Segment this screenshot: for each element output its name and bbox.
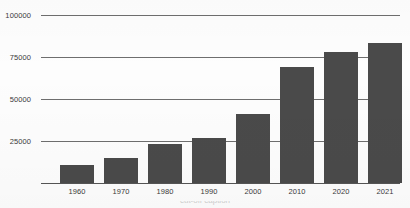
plot-area: 100000 75000 50000 25000 1960 1970 1980: [47, 8, 400, 183]
y-axis-label-50000: 50000: [0, 95, 31, 104]
bar-2010[interactable]: [280, 67, 314, 183]
caption-sliver: cut-off caption: [0, 201, 410, 208]
bars-layer: 1960 1970 1980 1990 2000 2010: [47, 8, 400, 183]
bar-group: 2000: [231, 8, 275, 183]
y-axis-label-75000: 75000: [0, 53, 31, 62]
x-axis-label-1980: 1980: [143, 187, 187, 196]
y-axis-label-25000: 25000: [0, 137, 31, 146]
bar-1960[interactable]: [60, 165, 94, 183]
bar-1970[interactable]: [104, 158, 138, 183]
bar-group: 1980: [143, 8, 187, 183]
bar-group: 1970: [99, 8, 143, 183]
bar-chart-figure: 100000 75000 50000 25000 1960 1970 1980: [0, 0, 410, 208]
x-axis-label-1960: 1960: [55, 187, 99, 196]
bar-2021[interactable]: [368, 43, 402, 183]
x-axis-label-1970: 1970: [99, 187, 143, 196]
bar-1980[interactable]: [148, 144, 182, 183]
caption-sliver-text: cut-off caption: [0, 201, 410, 205]
x-axis-label-1990: 1990: [187, 187, 231, 196]
bar-2000[interactable]: [236, 114, 270, 183]
bar-group: 1960: [55, 8, 99, 183]
bar-group: 1990: [187, 8, 231, 183]
x-axis-label-2000: 2000: [231, 187, 275, 196]
x-axis-baseline: [41, 183, 400, 184]
bar-group: 2021: [363, 8, 407, 183]
x-axis-label-2010: 2010: [275, 187, 319, 196]
bar-1990[interactable]: [192, 138, 226, 183]
x-axis-label-2021: 2021: [363, 187, 407, 196]
bar-group: 2020: [319, 8, 363, 183]
bar-group: 2010: [275, 8, 319, 183]
y-axis-label-100000: 100000: [0, 11, 31, 20]
x-axis-label-2020: 2020: [319, 187, 363, 196]
bar-2020[interactable]: [324, 52, 358, 183]
